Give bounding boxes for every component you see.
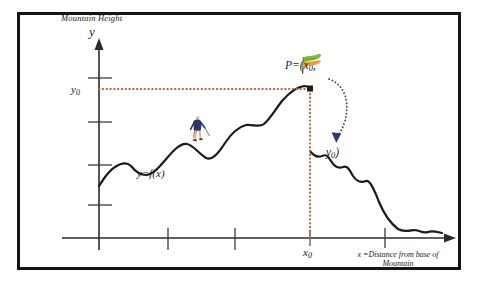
- mountain-height-plot: [0, 0, 477, 286]
- y0-tick-label: y0: [71, 84, 80, 97]
- summit-point-label-paren: ): [335, 146, 339, 158]
- figure-page: Mountain Height y x =Distance from base …: [0, 0, 477, 286]
- x-axis-arrowhead: [444, 234, 456, 243]
- x-axis-label-line1: x =Distance from base of: [357, 250, 438, 259]
- x0-tick-label: x0: [303, 247, 312, 260]
- x-axis-label-line2: Mountain: [382, 259, 413, 268]
- curve-equation-label: y=f(x): [137, 168, 165, 180]
- summit-point-label-left: P=(x0,: [285, 59, 316, 74]
- x-axis-label: x =Distance from base of Mountain: [338, 250, 458, 268]
- point-marker-icon: [307, 86, 313, 92]
- climber-icon: [191, 116, 210, 141]
- x0-tick-label-subscript: 0: [308, 251, 312, 260]
- curved-dotted-arrow-icon: [329, 79, 347, 143]
- summit-point-label-head: P=(x: [285, 59, 309, 71]
- summit-point-label-right: y0): [326, 146, 339, 161]
- mountain-curve-group: [99, 86, 442, 233]
- y0-tick-label-subscript: 0: [76, 88, 80, 97]
- summit-point-label-comma: ,: [313, 59, 316, 71]
- axes-group: [62, 38, 456, 250]
- mountain-descent-path: [310, 151, 442, 233]
- mountain-ascent-path: [99, 86, 310, 186]
- y-axis-label: y: [89, 25, 95, 39]
- y-axis-arrowhead: [95, 38, 104, 50]
- page-title: Mountain Height: [61, 14, 122, 23]
